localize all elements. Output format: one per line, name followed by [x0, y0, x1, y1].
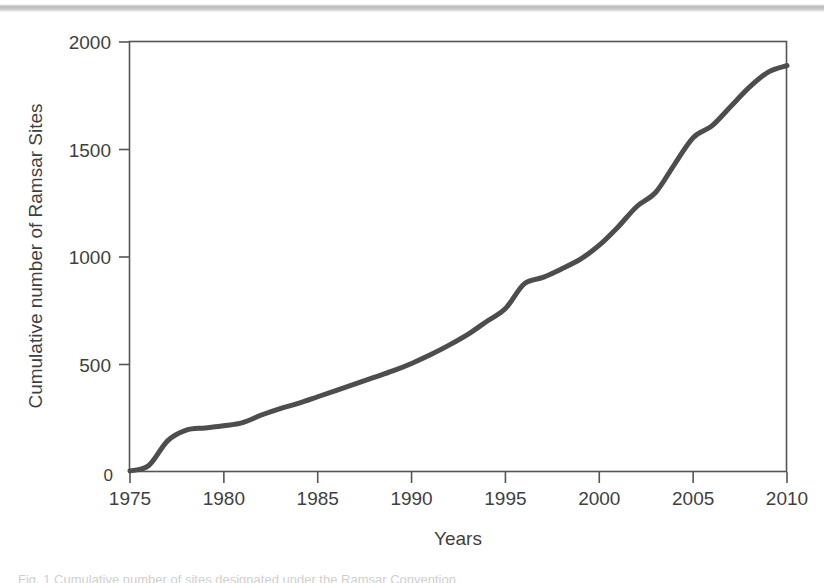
- x-axis-title: Years: [434, 528, 482, 549]
- x-tick-label: 1985: [297, 488, 339, 509]
- x-axis-ticks: [130, 472, 787, 483]
- y-axis-ticks: [119, 42, 130, 365]
- x-tick-label: 1980: [203, 488, 245, 509]
- data-series-line: [130, 66, 787, 471]
- x-axis-tick-labels: 19751980198519901995200020052010: [109, 488, 808, 509]
- y-tick-label: 1000: [69, 247, 111, 268]
- figure-page: 0500100015002000 19751980198519901995200…: [0, 0, 824, 583]
- ramsar-sites-line-chart: 0500100015002000 19751980198519901995200…: [0, 0, 824, 583]
- x-tick-label: 1975: [109, 488, 151, 509]
- y-tick-label: 2000: [69, 32, 111, 53]
- x-tick-label: 2010: [766, 488, 808, 509]
- y-tick-label: 1500: [69, 140, 111, 161]
- cut-off-caption: Fig. 1 Cumulative number of sites design…: [18, 573, 498, 583]
- plot-frame: [130, 42, 787, 472]
- y-axis-tick-labels: 0500100015002000: [69, 32, 113, 485]
- x-tick-label: 2005: [672, 488, 714, 509]
- y-tick-label: 500: [79, 355, 111, 376]
- x-tick-label: 1995: [484, 488, 526, 509]
- x-tick-label: 2000: [578, 488, 620, 509]
- chart-svg: 0500100015002000 19751980198519901995200…: [0, 0, 824, 583]
- y-tick-label: 0: [104, 466, 113, 485]
- y-axis-title: Cumulative number of Ramsar Sites: [25, 103, 46, 408]
- x-tick-label: 1990: [390, 488, 432, 509]
